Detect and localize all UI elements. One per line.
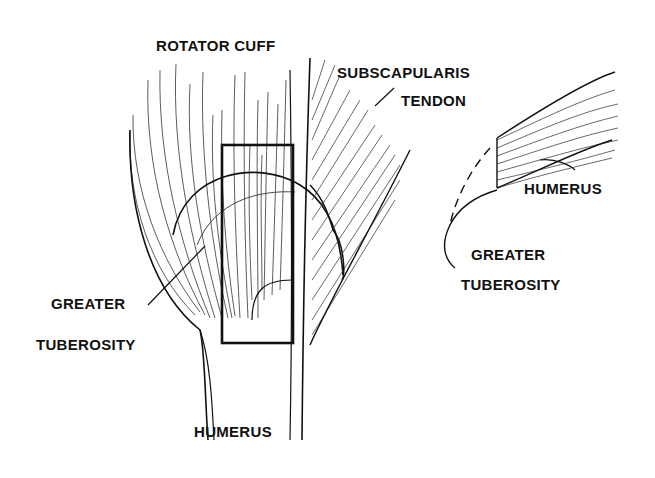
label-tendon: TENDON	[401, 93, 466, 108]
leader-line-greater-tuberosity	[148, 246, 205, 305]
right-tendon-top	[497, 72, 615, 138]
subscapularis-head-contour	[310, 185, 344, 280]
right-dashed-contour	[450, 148, 490, 225]
inner-arc	[197, 192, 295, 245]
label-greater-tuberosity-right-1: GREATER	[471, 247, 545, 262]
label-humerus-left: HUMERUS	[194, 424, 272, 439]
label-humerus-right: HUMERUS	[524, 181, 602, 196]
label-greater-tuberosity-right-2: TUBEROSITY	[461, 277, 561, 292]
leader-line-subscapularis	[375, 88, 394, 106]
rotator-cuff-outline	[130, 130, 208, 440]
anatomy-diagram	[0, 0, 655, 478]
subscapularis-fibers	[312, 60, 400, 335]
label-greater-tuberosity-left-2: TUBEROSITY	[36, 337, 136, 352]
right-tendon-fibers	[497, 90, 618, 188]
humerus-shaft-right	[290, 70, 292, 440]
rotator-cuff-fibers	[130, 64, 286, 318]
label-rotator-cuff: ROTATOR CUFF	[156, 38, 275, 53]
divider-line	[302, 58, 310, 440]
label-subscapularis: SUBSCAPULARIS	[337, 65, 470, 80]
label-greater-tuberosity-left-1: GREATER	[51, 296, 125, 311]
